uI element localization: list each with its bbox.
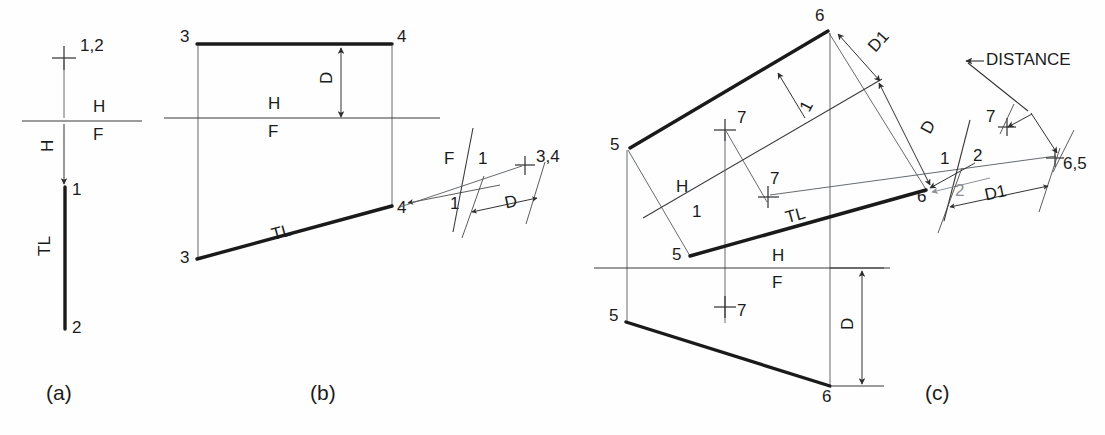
panel-caption-a: (a) bbox=[46, 381, 72, 404]
panel-c: 5 6 H 1 1 7 7 5 6 TL bbox=[594, 6, 1087, 406]
panel-a: 1,2 H F H 1 2 TL (a) bbox=[22, 36, 142, 403]
label-point-4-front-b: 4 bbox=[397, 198, 406, 217]
label-point-2-a: 2 bbox=[72, 318, 81, 337]
figure-canvas: 1,2 H F H 1 2 TL (a) 3 4 H F D 3 bbox=[0, 0, 1105, 435]
label-point-5-front-c: 5 bbox=[609, 306, 618, 325]
point-cross-7-aux-c bbox=[758, 186, 779, 208]
label-fold-1-c: 1 bbox=[692, 202, 701, 221]
projector-7-aux-right-c bbox=[770, 156, 1056, 195]
label-dim-d-lower-c: D bbox=[917, 117, 940, 137]
label-point-12: 1,2 bbox=[80, 36, 104, 55]
dim-d-lower-c bbox=[879, 83, 930, 185]
label-point-view-65-c: 6,5 bbox=[1063, 154, 1087, 173]
point-cross-7-front-c bbox=[714, 296, 736, 318]
label-true-length-a: TL bbox=[35, 236, 54, 256]
label-dim-d-b: D bbox=[317, 72, 336, 84]
label-point-7-aux-c: 7 bbox=[770, 169, 779, 188]
label-fold-1b-c: 1 bbox=[940, 149, 949, 168]
label-dim-d1-upper-c: D1 bbox=[864, 27, 893, 56]
label-point-6-top-c: 6 bbox=[815, 6, 824, 25]
label-point-7-top-c: 7 bbox=[737, 108, 746, 127]
label-dim-d-aux-b: D bbox=[503, 191, 519, 212]
label-aux-fold-f-b: F bbox=[444, 149, 454, 168]
label-point-6-aux-c: 6 bbox=[917, 187, 926, 206]
label-fold-h-b: H bbox=[268, 94, 280, 113]
object-line-5-6-front bbox=[626, 322, 830, 386]
label-fold-h-front-c: H bbox=[772, 246, 784, 265]
label-dim-d1-right-c: D1 bbox=[983, 181, 1008, 204]
label-point-5-top-c: 5 bbox=[610, 135, 619, 154]
label-fold-f-b: F bbox=[268, 122, 278, 141]
distance-dim-left-c bbox=[1008, 114, 1032, 127]
label-fold-f-a: F bbox=[93, 125, 103, 144]
aux-projector-5-c bbox=[628, 150, 690, 256]
distance-dim-right-c bbox=[1031, 113, 1057, 153]
label-aux-fold-1-b: 1 bbox=[478, 149, 487, 168]
label-dim-d-front-c: D bbox=[838, 318, 857, 330]
dim-ext-left2-c bbox=[938, 168, 962, 233]
label-point-7-front-c: 7 bbox=[737, 301, 746, 320]
panel-b: 3 4 H F D 3 4 TL 1 F 1 3,4 bbox=[164, 27, 560, 403]
label-point-1-a: 1 bbox=[72, 180, 81, 199]
label-fold-2-c: 2 bbox=[973, 146, 982, 165]
sight-arrow-1-c bbox=[778, 73, 805, 118]
label-distance-callout-c: DISTANCE bbox=[986, 50, 1071, 69]
label-fold-h-c: H bbox=[676, 177, 688, 196]
aux-projector-6-c bbox=[829, 33, 927, 191]
distance-leader-line-c bbox=[968, 63, 1028, 111]
label-fold-h-a: H bbox=[93, 97, 105, 116]
object-line-3-4-front bbox=[197, 206, 392, 259]
projector-pointview-c bbox=[930, 163, 975, 188]
label-aux-point-34-b: 3,4 bbox=[536, 147, 560, 166]
label-point-3-top-b: 3 bbox=[180, 27, 189, 46]
label-sight-1-c: 1 bbox=[796, 98, 817, 115]
label-point-view-7-c: 7 bbox=[986, 107, 995, 126]
point-view-cross-34-b bbox=[515, 156, 535, 175]
panel-caption-b: (b) bbox=[310, 381, 336, 404]
label-point-6-front-c: 6 bbox=[822, 387, 831, 406]
panel-caption-c: (c) bbox=[925, 381, 950, 404]
descriptive-geometry-drawing: 1,2 H F H 1 2 TL (a) 3 4 H F D 3 bbox=[0, 0, 1105, 435]
label-true-length-b: TL bbox=[269, 221, 293, 245]
label-point-5-aux-c: 5 bbox=[672, 245, 681, 264]
label-point-4-top-b: 4 bbox=[397, 27, 406, 46]
label-depth-h-a: H bbox=[38, 140, 57, 152]
label-point-3-front-b: 3 bbox=[180, 248, 189, 267]
dim-ext-right-b bbox=[526, 162, 545, 224]
label-fold-f-front-c: F bbox=[772, 273, 782, 292]
